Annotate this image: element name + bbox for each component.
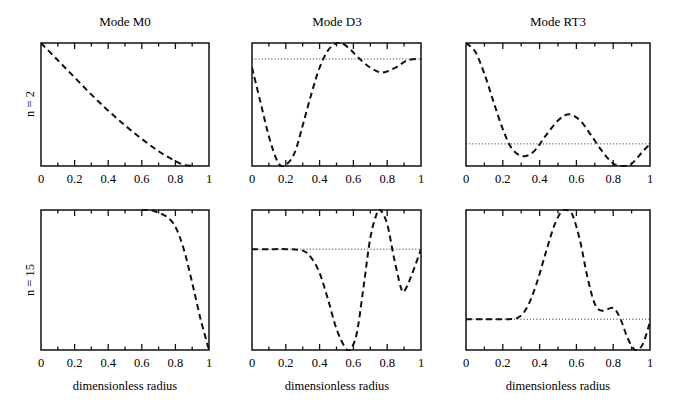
- x-tick-label: 0: [249, 356, 255, 370]
- panel-n15-mode-rt3: 00.20.40.60.81: [463, 209, 653, 370]
- data-curve: [252, 209, 421, 351]
- data-curve: [142, 210, 209, 350]
- x-tick-label: 0.2: [495, 356, 511, 370]
- x-tick-label: 0.2: [278, 356, 294, 370]
- data-curve: [466, 209, 650, 350]
- x-tick-label: 0.6: [569, 172, 585, 186]
- x-tick-label: 0.4: [312, 356, 328, 370]
- x-tick-label: 0.4: [312, 172, 328, 186]
- row-label-n15: n = 15: [23, 264, 37, 296]
- figure-canvas: Mode M0 Mode D3 Mode RT3 n = 2 n = 15 00…: [0, 0, 675, 410]
- x-tick-label: 0.8: [379, 172, 395, 186]
- x-tick-label: 0.4: [100, 172, 116, 186]
- x-tick-label: 0.4: [100, 356, 116, 370]
- data-curve: [466, 43, 650, 166]
- column-title-m0: Mode M0: [99, 14, 151, 29]
- x-tick-label: 0: [38, 356, 44, 370]
- data-curve: [252, 42, 421, 166]
- x-tick-label: 0.2: [495, 172, 511, 186]
- column-title-rt3: Mode RT3: [530, 14, 586, 29]
- x-tick-label: 0: [38, 172, 44, 186]
- row-label-n2: n = 2: [23, 91, 37, 117]
- x-tick-label: 0.4: [532, 172, 548, 186]
- column-titles: Mode M0 Mode D3 Mode RT3: [99, 14, 586, 29]
- panel-n2-mode-d3: 00.20.40.60.81: [249, 42, 424, 186]
- x-tick-label: 0.8: [379, 356, 395, 370]
- x-axis-label-d3: dimensionless radius: [285, 379, 390, 393]
- x-tick-label: 0.6: [134, 356, 150, 370]
- x-tick-label: 0.2: [67, 356, 83, 370]
- x-tick-label: 0.2: [278, 172, 294, 186]
- x-tick-label: 0.8: [605, 172, 621, 186]
- data-curve: [41, 43, 192, 166]
- row-labels: n = 2 n = 15: [23, 91, 37, 296]
- x-tick-label: 0.8: [168, 356, 184, 370]
- x-tick-label: 0.4: [532, 356, 548, 370]
- x-tick-label: 1: [647, 172, 653, 186]
- x-axis-labels: dimensionless radius dimensionless radiu…: [73, 379, 611, 393]
- panel-n15-mode-m0: 00.20.40.60.81: [38, 210, 212, 370]
- x-tick-label: 0.6: [569, 356, 585, 370]
- x-tick-label: 0.2: [67, 172, 83, 186]
- x-tick-label: 1: [418, 356, 424, 370]
- x-tick-label: 0: [463, 356, 469, 370]
- x-tick-label: 0: [463, 172, 469, 186]
- panel-n2-mode-m0: 00.20.40.60.81: [38, 43, 212, 186]
- x-tick-label: 1: [206, 172, 212, 186]
- plot-frame: [466, 43, 650, 166]
- x-tick-label: 0.6: [346, 356, 362, 370]
- plot-frame: [252, 43, 421, 166]
- x-tick-label: 0.8: [605, 356, 621, 370]
- panel-n15-mode-d3: 00.20.40.60.81: [249, 209, 424, 370]
- panel-n2-mode-rt3: 00.20.40.60.81: [463, 43, 653, 186]
- plot-panels: 00.20.40.60.8100.20.40.60.8100.20.40.60.…: [38, 42, 653, 370]
- x-tick-label: 0.8: [168, 172, 184, 186]
- plot-frame: [41, 43, 209, 166]
- x-tick-label: 1: [206, 356, 212, 370]
- plot-frame: [252, 210, 421, 350]
- x-axis-label-m0: dimensionless radius: [73, 379, 178, 393]
- column-title-d3: Mode D3: [312, 14, 361, 29]
- x-tick-label: 0.6: [134, 172, 150, 186]
- plot-frame: [466, 210, 650, 350]
- plot-frame: [41, 210, 209, 350]
- x-tick-label: 1: [418, 172, 424, 186]
- x-tick-label: 0: [249, 172, 255, 186]
- x-axis-label-rt3: dimensionless radius: [506, 379, 611, 393]
- x-tick-label: 1: [647, 356, 653, 370]
- x-tick-label: 0.6: [346, 172, 362, 186]
